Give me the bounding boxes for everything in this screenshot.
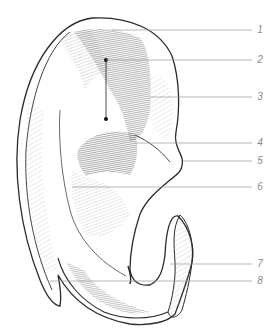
callout-label-5: 5 [255,156,265,166]
callout-label-6: 6 [255,182,265,192]
callout-label-2: 2 [255,55,265,65]
callout-label-7: 7 [255,259,265,269]
callout-label-3: 3 [255,92,265,102]
ear-cartilage-illustration [0,0,273,333]
callout-label-1: 1 [255,25,265,35]
dot-bottom [104,117,108,121]
callout-label-4: 4 [255,138,265,148]
callout-label-8: 8 [255,276,265,286]
